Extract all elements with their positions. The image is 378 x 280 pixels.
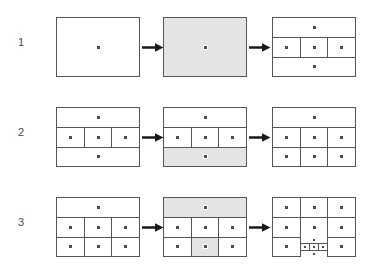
point-marker-icon [124, 245, 127, 248]
nested-band-bottom [301, 251, 327, 257]
arrow-right-icon [249, 132, 271, 143]
row2-panel-result [272, 107, 356, 167]
point-marker-icon [204, 226, 207, 229]
point-marker-icon [313, 116, 316, 119]
band-top [57, 198, 139, 217]
point-marker-icon [97, 136, 100, 139]
grid-cell [84, 238, 112, 256]
band-bottom [164, 237, 246, 256]
grid-cell [218, 238, 246, 256]
point-marker-icon [340, 46, 343, 49]
point-marker-icon [313, 155, 316, 158]
row2-panel-selected [163, 107, 247, 167]
point-marker-icon [204, 116, 207, 119]
point-marker-icon [231, 226, 234, 229]
point-marker-icon [285, 245, 288, 248]
point-marker-icon [313, 246, 315, 248]
nested-cell [309, 244, 318, 250]
nested-band-middle [301, 243, 327, 251]
nested-cell [301, 244, 309, 250]
point-marker-icon [204, 245, 207, 248]
nested-cell [301, 251, 327, 257]
band-middle [57, 217, 139, 236]
arrow-right-icon [142, 42, 164, 53]
band-bottom-highlighted [164, 147, 246, 166]
grid-cell [300, 218, 328, 236]
grid-cell-selected [164, 148, 246, 166]
grid-cell [273, 198, 300, 217]
point-marker-icon [285, 136, 288, 139]
band-top [164, 108, 246, 127]
arrow-right-icon [142, 132, 164, 143]
grid-cell [111, 218, 139, 236]
row2-panel-initial [56, 107, 140, 167]
grid-cell [273, 108, 355, 127]
point-marker-icon [231, 136, 234, 139]
grid-cell [57, 108, 139, 127]
point-marker-icon [340, 226, 343, 229]
point-marker-icon [285, 206, 288, 209]
band-bottom [273, 147, 355, 166]
point-marker-icon [313, 226, 316, 229]
diagram-row-2: 2 [0, 90, 378, 183]
row3-panel-result [272, 197, 356, 257]
grid-cell [57, 238, 84, 256]
grid-cell [84, 128, 112, 146]
arrow-right-icon [249, 42, 271, 53]
band-middle [57, 127, 139, 146]
point-marker-icon [69, 136, 72, 139]
band-bottom [273, 57, 355, 76]
band-bottom [57, 147, 139, 166]
recursive-subdivision-diagram: 1 [0, 0, 378, 280]
point-marker-icon [231, 245, 234, 248]
row1-panel-result [272, 17, 356, 77]
diagram-row-1: 1 [0, 0, 378, 93]
point-marker-icon [204, 136, 207, 139]
nested-subdivision [301, 237, 327, 257]
point-marker-icon [313, 253, 315, 255]
grid-cell [273, 58, 355, 76]
diagram-row-3: 3 [0, 180, 378, 273]
point-marker-icon [340, 245, 343, 248]
nested-cell [318, 244, 327, 250]
band-middle [164, 217, 246, 236]
band-top [273, 18, 355, 37]
row-label-2: 2 [10, 126, 32, 138]
point-marker-icon [97, 46, 100, 49]
point-marker-icon [285, 46, 288, 49]
point-marker-icon [176, 226, 179, 229]
grid-cell [300, 128, 328, 146]
grid-cell [111, 238, 139, 256]
grid-cell [218, 128, 246, 146]
grid-cell [57, 218, 84, 236]
grid-cell [327, 198, 355, 217]
point-marker-icon [204, 155, 207, 158]
grid-cell [84, 218, 112, 236]
grid-cell-selected [191, 238, 219, 256]
grid-cell [273, 148, 300, 166]
grid-cell [57, 148, 139, 166]
point-marker-icon [176, 136, 179, 139]
grid-cell [164, 238, 191, 256]
band-bottom [273, 237, 355, 256]
band-top-highlighted [164, 198, 246, 217]
point-marker-icon [313, 206, 316, 209]
grid-cell [273, 218, 300, 236]
row3-panel-selected [163, 197, 247, 257]
point-marker-icon [124, 226, 127, 229]
grid-cell [327, 238, 355, 256]
row1-panel-selected [163, 17, 247, 77]
point-marker-icon [313, 26, 316, 29]
band-top [273, 198, 355, 217]
point-marker-icon [313, 239, 315, 241]
point-marker-icon [204, 206, 207, 209]
point-marker-icon [124, 136, 127, 139]
grid-cell-nested [300, 238, 328, 256]
grid-cell [218, 218, 246, 236]
grid-cell [300, 148, 328, 166]
point-marker-icon [313, 46, 316, 49]
point-marker-icon [340, 136, 343, 139]
grid-cell [57, 198, 139, 217]
grid-cell [327, 128, 355, 146]
point-marker-icon [285, 155, 288, 158]
